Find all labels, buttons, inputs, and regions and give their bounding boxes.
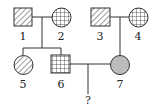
individual-3: 3 <box>91 8 110 43</box>
individual-7: 7 <box>111 56 130 92</box>
label-2: 2 <box>58 30 65 43</box>
pedigree-chart: 1 2 3 4 5 6 7 ? <box>0 0 152 106</box>
individual-4: 4 <box>129 8 148 43</box>
unknown-child-label: ? <box>85 94 91 106</box>
individual-6: 6 <box>51 55 70 91</box>
individual-5: 5 <box>14 56 33 92</box>
label-6: 6 <box>58 78 65 91</box>
label-3: 3 <box>97 30 104 43</box>
individual-2: 2 <box>52 8 71 43</box>
label-7: 7 <box>117 78 124 91</box>
label-5: 5 <box>20 78 27 91</box>
label-4: 4 <box>135 30 142 43</box>
individual-1: 1 <box>14 8 32 43</box>
label-1: 1 <box>20 30 27 43</box>
